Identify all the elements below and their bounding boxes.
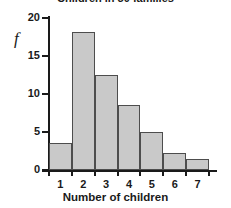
x-tick-label-1: 1 [48, 178, 72, 190]
x-tick-mark-6 [185, 170, 187, 176]
x-tick-mark-3 [117, 170, 119, 176]
bar-2 [72, 32, 95, 170]
x-tick-mark-2 [94, 170, 96, 176]
x-axis-line [42, 170, 217, 172]
x-tick-mark-7 [208, 170, 210, 176]
y-tick-mark-10 [42, 93, 48, 95]
x-tick-mark-5 [162, 170, 164, 176]
x-tick-label-2: 2 [71, 178, 95, 190]
x-tick-label-7: 7 [186, 178, 210, 190]
histogram-chart: Children in 50 families f 05101520 12345… [0, 0, 231, 208]
bar-5 [140, 132, 163, 170]
x-tick-label-3: 3 [94, 178, 118, 190]
y-tick-label-0: 0 [18, 164, 40, 175]
x-tick-mark-4 [139, 170, 141, 176]
y-tick-label-10: 10 [18, 88, 40, 99]
y-tick-mark-15 [42, 55, 48, 57]
y-axis-tick-labels: 05101520 [10, 0, 40, 208]
bar-4 [118, 105, 141, 170]
y-tick-label-5: 5 [18, 126, 40, 137]
y-tick-mark-20 [42, 17, 48, 19]
plot-area [49, 18, 209, 170]
x-axis-label: Number of children [0, 191, 231, 204]
bar-1 [49, 143, 72, 170]
bar-6 [163, 153, 186, 170]
x-tick-label-6: 6 [163, 178, 187, 190]
x-tick-mark-1 [71, 170, 73, 176]
y-tick-mark-5 [42, 131, 48, 133]
y-tick-label-20: 20 [18, 12, 40, 23]
x-tick-label-4: 4 [117, 178, 141, 190]
x-tick-label-5: 5 [140, 178, 164, 190]
bar-3 [95, 75, 118, 170]
bar-7 [186, 159, 209, 170]
y-tick-label-15: 15 [18, 50, 40, 61]
x-tick-mark-0 [48, 170, 50, 176]
